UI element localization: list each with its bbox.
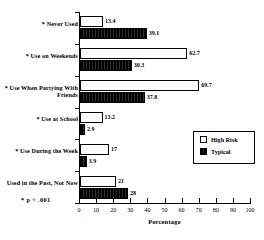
x-axis-tick [216, 198, 217, 204]
x-axis-tick [182, 198, 183, 204]
bar-value-label: 17 [111, 146, 117, 153]
bar-typical [80, 60, 132, 71]
category-label: * Use When Partying With Friends [0, 84, 78, 99]
legend-item-high-risk: High Risk [200, 136, 254, 143]
bar-high-risk [80, 112, 103, 123]
bar-high-risk [80, 80, 199, 91]
open-square-icon [200, 136, 207, 143]
y-axis-tick [75, 76, 80, 77]
y-axis-tick [75, 44, 80, 45]
category-label: * Use During the Week [0, 147, 78, 155]
bar-value-label: 30.3 [134, 62, 145, 69]
x-axis-tick [96, 198, 97, 204]
bar-typical [80, 28, 147, 39]
bar-value-label: 3.9 [89, 158, 97, 165]
bar-value-label: 69.7 [201, 82, 212, 89]
bar-value-label: 21 [118, 178, 124, 185]
bar-value-label: 62.7 [189, 50, 200, 57]
x-axis-tick [250, 198, 251, 204]
x-axis-tick [147, 198, 148, 204]
bar-typical [80, 188, 128, 199]
bar-chart: 0102030405060708090100 Percentage * Neve… [0, 0, 264, 240]
bar-value-label: 2.9 [87, 126, 95, 133]
x-axis-title: Percentage [79, 218, 250, 225]
category-label: * Never Used [0, 20, 78, 28]
legend: High Risk Typical [193, 131, 255, 164]
bar-value-label: 39.1 [149, 30, 160, 37]
legend-label-typical: Typical [211, 148, 230, 155]
bar-value-label: 28 [130, 190, 136, 197]
y-axis-tick [75, 139, 80, 140]
filled-square-icon [200, 148, 207, 155]
x-axis-tick [113, 198, 114, 204]
bar-typical [80, 124, 85, 135]
bar-high-risk [80, 48, 187, 59]
bar-value-label: 13.4 [105, 18, 116, 25]
bar-value-label: 37.8 [147, 94, 158, 101]
x-axis-tick [199, 198, 200, 204]
x-axis-tick [165, 198, 166, 204]
x-axis-tick [233, 198, 234, 204]
category-label: * Use on Weekends [0, 52, 78, 60]
significance-footnote: * p < .001 [21, 196, 51, 204]
y-axis-tick [75, 203, 80, 204]
x-axis-tick-label: 100 [240, 207, 260, 214]
bar-high-risk [80, 176, 116, 187]
bar-value-label: 13.2 [105, 114, 116, 121]
legend-item-typical: Typical [200, 148, 254, 155]
y-axis-tick [75, 108, 80, 109]
bar-high-risk [80, 144, 109, 155]
x-axis-tick [130, 198, 131, 204]
category-label: * Use at School [0, 115, 78, 123]
bar-typical [80, 156, 87, 167]
legend-label-high-risk: High Risk [211, 136, 238, 143]
y-axis-tick [75, 12, 80, 13]
bar-typical [80, 92, 145, 103]
y-axis-tick [75, 171, 80, 172]
bar-high-risk [80, 16, 103, 27]
category-label: Used in the Past, Not Now [0, 179, 78, 187]
